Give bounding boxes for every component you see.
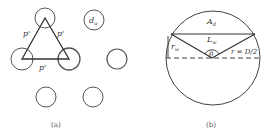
weir-height-label: rw — [171, 42, 180, 52]
pitch-label-left: p' — [23, 29, 30, 38]
weir-height-subscript: w — [175, 46, 180, 52]
panel-a — [11, 8, 127, 107]
weir-length-label: Lw — [206, 35, 217, 45]
tube-circle-row3-left — [36, 87, 56, 107]
downcomer-area-label: Ad — [206, 17, 216, 27]
pitch-triangle — [22, 18, 69, 59]
figure-canvas: p' p' p' do (a) Ad Lw rw θ r = D/2 (b) — [0, 0, 271, 133]
tube-diameter-label: do — [89, 16, 97, 26]
tube-circle-row3-right — [83, 87, 103, 107]
tube-diameter-subscript: o — [94, 20, 97, 26]
tube-circle-right — [107, 49, 127, 69]
radius-label: r = D/2 — [231, 48, 258, 56]
pitch-label-bottom: p' — [39, 63, 46, 72]
weir-length-subscript: w — [212, 39, 217, 45]
area-subscript: d — [213, 21, 216, 27]
pitch-label-right: p' — [57, 29, 64, 38]
caption-a: (a) — [51, 121, 61, 129]
caption-b: (b) — [206, 121, 216, 129]
